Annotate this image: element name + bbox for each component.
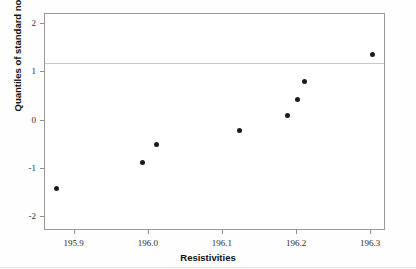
- data-point: [154, 142, 159, 147]
- x-tick-label: 196.3: [360, 239, 380, 248]
- data-point: [237, 128, 242, 133]
- y-axis-title: Quantiles of standard normal: [12, 0, 23, 126]
- data-point: [295, 97, 300, 102]
- x-tick-label: 196.0: [138, 239, 158, 248]
- plot-canvas: [45, 14, 384, 229]
- qq-plot-figure: Quantiles of standard normal 210-1-2 Res…: [0, 0, 416, 269]
- y-axis: Quantiles of standard normal 210-1-2: [0, 0, 44, 269]
- y-tick-label: -1: [29, 163, 37, 172]
- reference-gridline: [45, 63, 384, 64]
- y-tick-label: 1: [32, 67, 37, 76]
- x-axis-title: Resistivities: [0, 252, 416, 263]
- data-point: [140, 160, 145, 165]
- x-tick-mark: [296, 230, 297, 234]
- x-tick-mark: [370, 230, 371, 234]
- data-point: [285, 113, 290, 118]
- x-tick-label: 196.2: [286, 239, 306, 248]
- x-tick-mark: [222, 230, 223, 234]
- x-tick-mark: [148, 230, 149, 234]
- data-point: [370, 52, 375, 57]
- data-point: [302, 79, 307, 84]
- x-tick-label: 195.9: [64, 239, 84, 248]
- x-tick-label: 196.1: [212, 239, 232, 248]
- page-edge-artifact: [0, 267, 416, 268]
- plot-area: [44, 13, 385, 230]
- data-point: [54, 186, 59, 191]
- y-tick-label: -2: [29, 212, 37, 221]
- y-tick-label: 2: [32, 19, 37, 28]
- x-axis: Resistivities 195.9196.0196.1196.2196.3: [0, 230, 416, 269]
- y-tick-label: 0: [32, 115, 37, 124]
- x-tick-mark: [74, 230, 75, 234]
